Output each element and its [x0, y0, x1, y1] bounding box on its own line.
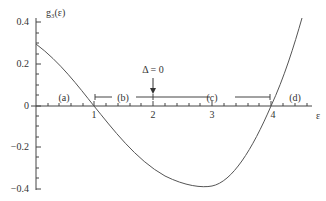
- x-axis-label: ε: [316, 110, 320, 121]
- y-axis: [31, 18, 41, 190]
- x-tick-3: 3: [210, 109, 215, 120]
- y-axis-label: g₃(ε): [46, 7, 65, 19]
- x-tick-1: 1: [92, 109, 97, 120]
- x-tick-4: 4: [271, 109, 276, 120]
- x-tick-2: 2: [151, 109, 156, 120]
- y-tick-0: 0: [24, 100, 29, 111]
- y-tick-neg0.4: −0.4: [11, 183, 29, 194]
- region-label-c: (c): [206, 92, 217, 104]
- region-label-b: (b): [117, 92, 129, 104]
- region-label-d: (d): [289, 92, 301, 104]
- chart-canvas: 0.4 0.2 0 −0.2 −0.4 1 2 3 4 g₃(ε) ε (a) …: [0, 0, 326, 201]
- region-label-a: (a): [58, 92, 69, 104]
- y-tick-neg0.2: −0.2: [11, 141, 29, 152]
- curve-g3: [36, 18, 302, 187]
- y-tick-0.2: 0.2: [17, 58, 30, 69]
- arrow-down-icon: [150, 78, 156, 94]
- delta-zero-label: Δ = 0: [142, 64, 164, 75]
- x-axis: [36, 101, 312, 106]
- y-tick-0.4: 0.4: [17, 16, 30, 27]
